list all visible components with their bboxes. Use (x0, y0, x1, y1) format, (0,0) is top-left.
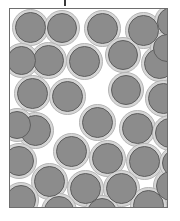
particle-core (111, 75, 141, 105)
particle-core (34, 166, 65, 197)
tick-mark-icon (64, 0, 66, 6)
particle-core (122, 113, 153, 144)
packing-figure (0, 0, 180, 221)
particle-core (17, 78, 48, 109)
particle-core (9, 46, 36, 75)
particle-core (92, 143, 123, 174)
particle-core (82, 107, 113, 138)
particle-core (129, 146, 160, 177)
particle-core (33, 45, 64, 76)
particle-core (47, 13, 77, 43)
particle-core (69, 46, 100, 77)
sample-boundary (9, 8, 168, 208)
particle-core (106, 173, 137, 204)
particle-core (56, 136, 87, 167)
particle-core (52, 81, 83, 112)
particle-core (15, 12, 46, 43)
particle-core (108, 40, 138, 70)
particle-core (87, 13, 118, 44)
